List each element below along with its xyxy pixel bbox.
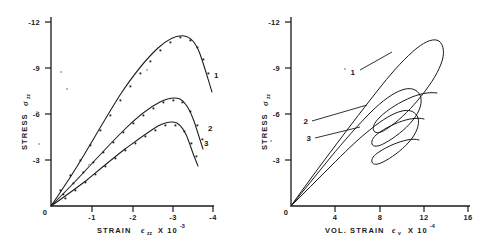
right-x-axis-symbol: ϵ: [392, 225, 396, 235]
left-x-axis-title: STRAIN ϵ zz X 10 -3: [97, 223, 185, 236]
right-x-ticklabel-4: 4: [333, 213, 338, 222]
left-curve-label-1: 1: [214, 71, 219, 80]
left-x-axis-exponent: -3: [180, 223, 185, 229]
left-x-axis-title-text: STRAIN: [97, 226, 132, 235]
left-x-axis-symbol-subscript: zz: [147, 230, 153, 236]
left-x-ticklabel-1: -1: [88, 213, 95, 222]
left-y-ticklabel-9: -9: [33, 64, 40, 73]
right-y-ticklabel-9: -9: [273, 64, 280, 73]
scan-speck: [344, 68, 346, 70]
scan-speck: [60, 71, 62, 73]
left-y-ticklabel-12: -12: [28, 18, 40, 27]
right-y-axis-title-text: STRESS: [260, 113, 269, 150]
right-y-axis-symbol-subscript: zz: [265, 94, 271, 100]
right-x-ticklabel-12: 12: [420, 213, 429, 222]
right-y-axis-symbol: σ: [260, 101, 270, 106]
scan-speck: [88, 164, 90, 166]
right-y-ticklabel-3: -3: [273, 156, 280, 165]
right-x-axis-exponent: -4: [430, 223, 436, 229]
right-x-ticklabel-16: 16: [464, 213, 473, 222]
left-x-ticklabel-2: -2: [129, 213, 136, 222]
right-x-ticklabel-8: 8: [378, 213, 382, 222]
scan-speck: [270, 140, 272, 142]
left-curve-3-markers: [65, 125, 198, 200]
left-curve-1: [51, 36, 212, 206]
right-origin-label: 0: [284, 208, 288, 217]
left-y-axis-title: STRESS σ zz: [20, 94, 31, 151]
left-y-ticklabel-3: -3: [33, 156, 40, 165]
right-leader-2: [312, 105, 367, 121]
right-y-axis-title: STRESS σ zz: [260, 94, 271, 151]
scan-speck: [36, 111, 38, 113]
right-x-axis-multiplier: X 10: [408, 226, 428, 235]
right-y-ticklabel-6: -6: [273, 110, 280, 119]
left-x-axis-multiplier: X 10: [158, 226, 178, 235]
right-curve-label-3: 3: [307, 134, 312, 143]
left-y-axis-symbol: σ: [20, 101, 30, 106]
left-curve-label-3: 3: [204, 139, 209, 148]
scan-speck: [146, 69, 148, 71]
scan-speck: [38, 143, 40, 145]
right-loop-3: [291, 110, 419, 206]
left-x-axis-symbol: ϵ: [141, 225, 145, 235]
left-x-ticklabel-3: -3: [169, 213, 176, 222]
right-x-axis-title-text: VOL. STRAIN: [325, 226, 385, 235]
scientific-figure: -12 -9 -6 -3 -1 -2 -3 -4 0 STRESS σ zz S…: [0, 0, 491, 242]
left-y-axis-title-text: STRESS: [20, 113, 29, 150]
left-panel: -12 -9 -6 -3 -1 -2 -3 -4 0 STRESS σ zz S…: [20, 17, 219, 236]
left-y-axis-symbol-subscript: zz: [25, 94, 31, 100]
right-panel: -12 -9 -6 -3 4 8 12 16 0 STRESS σ zz VOL…: [260, 17, 472, 236]
left-curve-3: [51, 122, 198, 206]
right-loop-1: [291, 40, 443, 206]
right-y-ticklabel-12: -12: [268, 18, 280, 27]
right-curve-label-1: 1: [351, 68, 356, 77]
right-leader-1: [360, 52, 392, 70]
right-x-axis-symbol-subscript: v: [398, 230, 401, 236]
left-curve-1-markers: [60, 37, 210, 192]
right-curve-label-2: 2: [304, 117, 309, 126]
left-x-ticklabel-4: -4: [209, 213, 217, 222]
left-curve-label-2: 2: [208, 124, 213, 133]
right-x-axis-title: VOL. STRAIN ϵ v X 10 -4: [325, 223, 436, 236]
right-leader-3: [315, 127, 360, 138]
left-origin-label: 0: [43, 208, 47, 217]
left-curve-2-markers: [63, 100, 204, 196]
scan-speck: [66, 88, 68, 90]
